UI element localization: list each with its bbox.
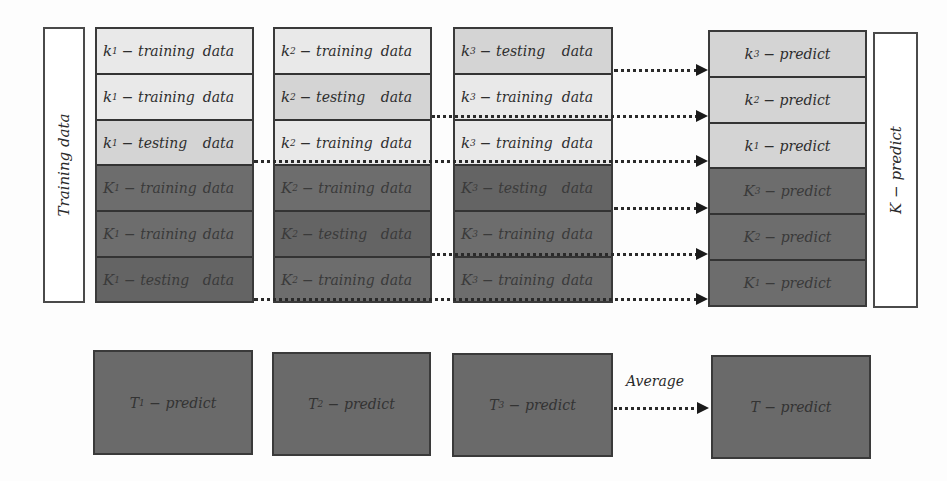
- fold-column-1: k1− trainingdata k1− trainingdata k1− te…: [95, 27, 254, 303]
- fold-2-row-6: K2− trainingdata: [275, 258, 430, 301]
- row-symbol: K: [461, 271, 472, 289]
- row-data-word: data: [562, 180, 593, 196]
- row-label: − testing: [480, 43, 545, 59]
- row-label: − predict: [763, 92, 830, 108]
- fold-2-row-5: K2− testingdata: [275, 212, 430, 258]
- row-subscript: 2: [755, 232, 761, 242]
- predict-row-3: k1− predict: [710, 124, 865, 169]
- row-symbol: K: [103, 179, 114, 197]
- row-subscript: 1: [114, 275, 120, 285]
- row-data-word: data: [203, 180, 234, 196]
- row-label: − training: [300, 43, 373, 59]
- row-subscript: 1: [112, 92, 118, 102]
- row-data-word: data: [203, 89, 234, 105]
- row-subscript: 2: [292, 275, 298, 285]
- predict-row-2: k2− predict: [710, 78, 865, 124]
- row-symbol: k: [103, 88, 112, 106]
- training-data-label-box: Training data: [43, 27, 85, 303]
- row-symbol: K: [103, 271, 114, 289]
- row-label: − predict: [764, 275, 831, 291]
- row-symbol: K: [281, 179, 292, 197]
- fold-column-2: k2− trainingdata k2− testingdata k2− tra…: [273, 27, 432, 303]
- arrow-head-icon: [696, 248, 708, 260]
- connector-line: [254, 160, 698, 163]
- row-subscript: 3: [470, 46, 476, 56]
- row-label: − testing: [300, 89, 365, 105]
- fold-1-row-4: K1− trainingdata: [97, 166, 252, 212]
- row-symbol: k: [745, 45, 754, 63]
- row-subscript: 3: [472, 229, 478, 239]
- row-data-word: data: [381, 89, 412, 105]
- row-symbol: K: [103, 225, 114, 243]
- fold-3-row-5: K3− trainingdata: [455, 212, 611, 258]
- row-label: − training: [302, 180, 375, 196]
- row-subscript: 3: [755, 186, 761, 196]
- row-subscript: 1: [112, 46, 118, 56]
- row-label: − training: [124, 180, 197, 196]
- row-symbol: k: [745, 91, 754, 109]
- row-symbol: k: [281, 42, 290, 60]
- t2-predict-box: T2 − predict: [272, 352, 431, 456]
- row-subscript: 1: [755, 278, 761, 288]
- training-data-label: Training data: [55, 114, 73, 217]
- t-predict-box: T − predict: [711, 355, 871, 459]
- arrow-head-icon: [697, 402, 709, 414]
- row-symbol: K: [744, 182, 755, 200]
- fold-3-row-1: k3− testingdata: [455, 29, 611, 75]
- predict-row-6: K1− predict: [710, 261, 865, 305]
- row-symbol: k: [461, 42, 470, 60]
- row-subscript: 2: [290, 92, 296, 102]
- row-subscript: 3: [472, 275, 478, 285]
- row-label: − training: [480, 135, 553, 151]
- row-data-word: data: [562, 226, 593, 242]
- t1-predict-box: T1 − predict: [93, 350, 253, 455]
- row-data-word: data: [562, 272, 593, 288]
- row-label: − testing: [124, 272, 189, 288]
- connector-line: [614, 207, 698, 210]
- connector-line: [432, 253, 698, 256]
- average-connector-line: [614, 407, 700, 410]
- row-label: − training: [480, 89, 553, 105]
- row-label: − training: [122, 43, 195, 59]
- row-label: − training: [302, 272, 375, 288]
- predict-row-4: K3− predict: [710, 169, 865, 215]
- t2-symbol: T: [308, 396, 317, 412]
- t-symbol: T: [751, 399, 760, 415]
- row-data-word: data: [381, 180, 412, 196]
- row-data-word: data: [203, 226, 234, 242]
- row-symbol: K: [461, 179, 472, 197]
- row-subscript: 1: [114, 229, 120, 239]
- arrow-head-icon: [696, 293, 708, 305]
- row-data-word: data: [203, 135, 234, 151]
- row-symbol: K: [744, 274, 755, 292]
- row-data-word: data: [381, 272, 412, 288]
- fold-2-row-2: k2− testingdata: [275, 75, 430, 121]
- fold-2-row-4: K2− trainingdata: [275, 166, 430, 212]
- row-label: − training: [124, 226, 197, 242]
- row-symbol: k: [281, 134, 290, 152]
- row-subscript: 2: [292, 229, 298, 239]
- row-label: − training: [300, 135, 373, 151]
- row-label: − predict: [764, 229, 831, 245]
- arrow-head-icon: [696, 64, 708, 76]
- row-symbol: k: [281, 88, 290, 106]
- row-data-word: data: [203, 272, 234, 288]
- fold-1-row-2: k1− trainingdata: [97, 75, 252, 121]
- t2-subscript: 2: [318, 399, 324, 409]
- row-symbol: K: [281, 225, 292, 243]
- row-symbol: K: [281, 271, 292, 289]
- t3-symbol: T: [489, 397, 498, 413]
- row-symbol: k: [103, 134, 112, 152]
- k-predict-label-box: K − predict: [873, 32, 918, 308]
- fold-column-3: k3− testingdata k3− trainingdata k3− tra…: [453, 27, 613, 303]
- row-symbol: k: [103, 42, 112, 60]
- row-data-word: data: [381, 43, 412, 59]
- t1-symbol: T: [130, 395, 139, 411]
- row-label: − testing: [122, 135, 187, 151]
- t3-subscript: 3: [499, 400, 505, 410]
- row-subscript: 1: [114, 183, 120, 193]
- row-label: − training: [122, 89, 195, 105]
- row-subscript: 2: [290, 46, 296, 56]
- t1-label: − predict: [149, 395, 216, 411]
- row-subscript: 1: [112, 138, 118, 148]
